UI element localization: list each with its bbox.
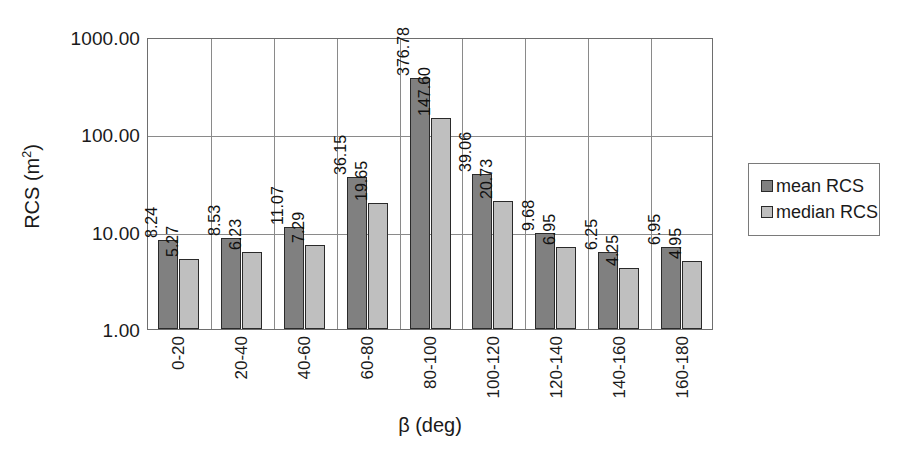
x-axis-tick: 80-100 — [399, 334, 462, 412]
bar-median[interactable]: 5.27 — [179, 259, 199, 329]
x-axis-tick: 60-80 — [336, 334, 399, 412]
bar-mean[interactable]: 8.53 — [221, 238, 241, 329]
bar-group: 8.536.23 — [211, 39, 274, 329]
x-axis-tick-label: 40-60 — [296, 336, 313, 379]
bar-group: 39.0620.73 — [462, 39, 525, 329]
bar-median[interactable]: 19.65 — [368, 203, 388, 329]
x-axis-tick-label: 0-20 — [170, 336, 187, 370]
bar-value-label: 39.06 — [458, 132, 474, 172]
bar-value-label: 147.60 — [417, 67, 433, 116]
bar-median[interactable]: 4.95 — [682, 261, 702, 329]
bar-mean[interactable]: 6.95 — [661, 247, 681, 329]
y-axis-tick: 10.00 — [0, 224, 140, 243]
bar-group: 6.954.95 — [651, 39, 714, 329]
bar-value-label: 9.68 — [521, 200, 537, 231]
x-axis-tick: 120-140 — [524, 334, 587, 412]
legend-swatch-icon — [761, 180, 773, 192]
bar-median[interactable]: 20.73 — [493, 201, 513, 329]
bar-median[interactable]: 4.25 — [619, 268, 639, 329]
x-axis-tick-label: 160-180 — [673, 336, 690, 398]
bar-group: 36.1519.65 — [337, 39, 400, 329]
bar-value-label: 4.25 — [605, 235, 621, 266]
x-axis-tick-label: 140-160 — [610, 336, 627, 398]
x-axis-tick-label: 120-140 — [547, 336, 564, 398]
bar-value-label: 20.73 — [479, 159, 495, 199]
x-axis-title: β (deg) — [147, 414, 713, 437]
x-axis-tick: 40-60 — [273, 334, 336, 412]
bar-value-label: 11.07 — [270, 187, 286, 226]
bar-value-label: 19.65 — [354, 161, 370, 201]
legend-swatch-icon — [761, 206, 773, 218]
x-axis-tick: 20-40 — [210, 334, 273, 412]
y-axis-tick: 1.00 — [0, 321, 140, 340]
bar-group: 9.686.95 — [525, 39, 588, 329]
bar-group: 11.077.29 — [274, 39, 337, 329]
bar-value-label: 376.78 — [396, 27, 412, 76]
x-axis-tick-label: 20-40 — [233, 336, 250, 379]
bar-value-label: 6.95 — [542, 214, 558, 245]
bar-group: 376.78147.60 — [400, 39, 463, 329]
bar-median[interactable]: 6.23 — [242, 252, 262, 329]
bar-value-label: 7.29 — [291, 212, 307, 243]
x-axis-tick-label: 100-120 — [484, 336, 501, 398]
bar-median[interactable]: 7.29 — [305, 245, 325, 329]
legend-label: mean RCS — [776, 177, 864, 195]
bar-value-label: 6.25 — [584, 218, 600, 249]
bar-value-label: 8.24 — [144, 207, 160, 238]
bar-median[interactable]: 147.60 — [431, 118, 451, 329]
bar-value-label: 8.53 — [207, 205, 223, 236]
legend-item[interactable]: median RCS — [761, 199, 869, 225]
rcs-bar-chart: RCS (m2) 1000.00100.0010.001.00 8.245.27… — [0, 0, 918, 457]
bar-group: 6.254.25 — [588, 39, 651, 329]
chart-legend: mean RCSmedian RCS — [748, 163, 880, 236]
bar-value-label: 5.27 — [165, 226, 181, 257]
bar-value-label: 36.15 — [333, 135, 349, 175]
y-axis-tick-labels: 1000.00100.0010.001.00 — [0, 38, 140, 330]
bar-value-label: 4.95 — [668, 228, 684, 259]
x-axis-tick: 160-180 — [650, 334, 713, 412]
x-axis-tick-label: 60-80 — [359, 336, 376, 379]
legend-item[interactable]: mean RCS — [761, 173, 869, 199]
bar-median[interactable]: 6.95 — [556, 247, 576, 329]
legend-label: median RCS — [776, 203, 878, 221]
y-axis-tick: 100.00 — [0, 126, 140, 145]
bar-mean[interactable]: 9.68 — [535, 233, 555, 329]
x-axis-tick-label: 80-100 — [421, 336, 438, 389]
bar-value-label: 6.95 — [647, 214, 663, 245]
plot-area: 8.245.278.536.2311.077.2936.1519.65376.7… — [147, 38, 713, 330]
bar-group: 8.245.27 — [148, 39, 211, 329]
x-axis-tick: 140-160 — [587, 334, 650, 412]
x-axis-tick-labels: 0-2020-4040-6060-8080-100100-120120-1401… — [147, 334, 713, 412]
x-axis-tick: 100-120 — [461, 334, 524, 412]
bar-value-label: 6.23 — [228, 219, 244, 250]
x-axis-tick: 0-20 — [147, 334, 210, 412]
y-axis-tick: 1000.00 — [0, 29, 140, 48]
